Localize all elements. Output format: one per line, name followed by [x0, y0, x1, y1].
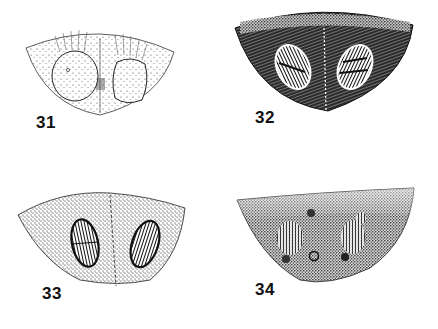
figure-34-drawing [237, 188, 414, 282]
figure-32-drawing [235, 12, 413, 111]
plate-drawings [0, 0, 438, 329]
figure-33-label: 33 [42, 284, 62, 304]
figure-33-drawing [18, 193, 185, 286]
figure-34-label: 34 [255, 280, 275, 300]
figure-31-drawing [26, 30, 174, 115]
figure-32-label: 32 [255, 108, 275, 128]
illustration-plate: 31 32 33 34 [0, 0, 438, 329]
figure-31-label: 31 [36, 113, 56, 133]
